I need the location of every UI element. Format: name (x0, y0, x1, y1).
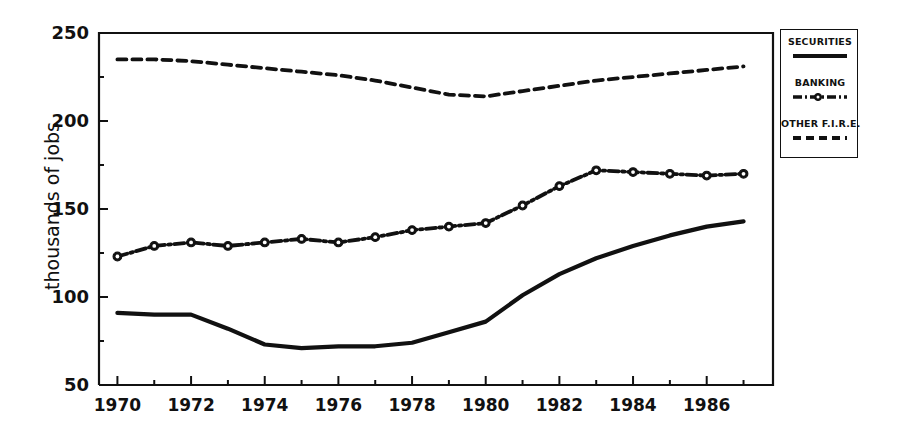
series-marker-center (300, 237, 304, 241)
series-marker-center (263, 241, 267, 245)
series-marker-center (557, 184, 561, 188)
legend-entry-securities: SECURITIES (781, 36, 859, 61)
series-marker-center (594, 168, 598, 172)
y-axis-major-ticks (99, 33, 108, 385)
plot-frame (99, 33, 773, 385)
series-marker-center (373, 235, 377, 239)
legend-label-banking: BANKING (781, 77, 859, 88)
x-tick-label: 1974 (235, 395, 295, 415)
series-line-securities (117, 221, 743, 348)
x-tick-label: 1976 (308, 395, 368, 415)
series-marker-center (116, 255, 120, 259)
series-marker-center (410, 228, 414, 232)
chart-plot-svg (0, 0, 899, 439)
legend-swatch-other-fire-dashed (781, 133, 859, 143)
series-marker-center (226, 244, 230, 248)
x-tick-label: 1984 (603, 395, 663, 415)
legend-entry-other-fire: OTHER F.I.R.E. (781, 118, 859, 143)
x-axis-major-ticks (117, 376, 706, 385)
series-marker-center (447, 225, 451, 229)
series-marker-center (189, 241, 193, 245)
legend-swatch-securities-solid (781, 51, 859, 61)
series-marker-center (631, 170, 635, 174)
x-tick-label: 1982 (529, 395, 589, 415)
legend-label-other-fire: OTHER F.I.R.E. (781, 118, 859, 129)
series-marker-center (742, 172, 746, 176)
x-tick-label: 1978 (382, 395, 442, 415)
y-tick-label: 200 (37, 110, 89, 131)
legend-entry-banking: BANKING (781, 77, 859, 102)
y-tick-label: 150 (37, 198, 89, 219)
x-tick-label: 1970 (87, 395, 147, 415)
series-marker-center (705, 174, 709, 178)
series-line-banking (117, 170, 743, 256)
series-line-other-f-i-r-e (117, 59, 743, 96)
series-marker-center (668, 172, 672, 176)
x-tick-label: 1972 (161, 395, 221, 415)
data-series-layer (113, 59, 748, 348)
legend-swatch-banking-dashdot (781, 92, 859, 102)
x-tick-label: 1986 (677, 395, 737, 415)
x-tick-label: 1980 (456, 395, 516, 415)
series-marker-center (484, 221, 488, 225)
chart-legend: SECURITIES BANKING OTHER F.I.R.E. (780, 29, 858, 158)
series-marker-center (152, 244, 156, 248)
y-tick-label: 100 (37, 286, 89, 307)
y-tick-label: 50 (37, 374, 89, 395)
series-marker-center (521, 204, 525, 208)
chart-figure: thousands of jobs 50100150200250 1970197… (0, 0, 899, 439)
legend-label-securities: SECURITIES (781, 36, 859, 47)
y-tick-label: 250 (37, 22, 89, 43)
series-marker-center (336, 241, 340, 245)
